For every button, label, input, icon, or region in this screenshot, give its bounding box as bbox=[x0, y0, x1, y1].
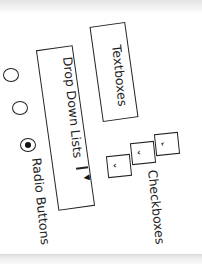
scan-bottom-edge bbox=[0, 254, 202, 264]
scan-top-edge bbox=[0, 0, 202, 14]
check-mark-icon: ‹ bbox=[112, 159, 117, 171]
check-mark-icon: ‹ bbox=[136, 146, 141, 158]
radio-button-selected bbox=[20, 138, 36, 152]
checkbox-3: ‹ bbox=[154, 132, 180, 156]
checkbox-2: ‹ bbox=[130, 141, 156, 165]
checkbox-1: ‹ bbox=[106, 154, 132, 178]
dropdown-arrow-icon: ▼ bbox=[82, 174, 92, 181]
check-mark-icon: ‹ bbox=[159, 137, 167, 149]
radio-button-1 bbox=[3, 68, 19, 82]
radio-selected-dot-icon bbox=[25, 142, 31, 148]
radio-buttons-label: Radio Buttons bbox=[29, 157, 53, 246]
radio-button-2 bbox=[12, 101, 28, 115]
checkboxes-label: Checkboxes bbox=[145, 169, 168, 245]
